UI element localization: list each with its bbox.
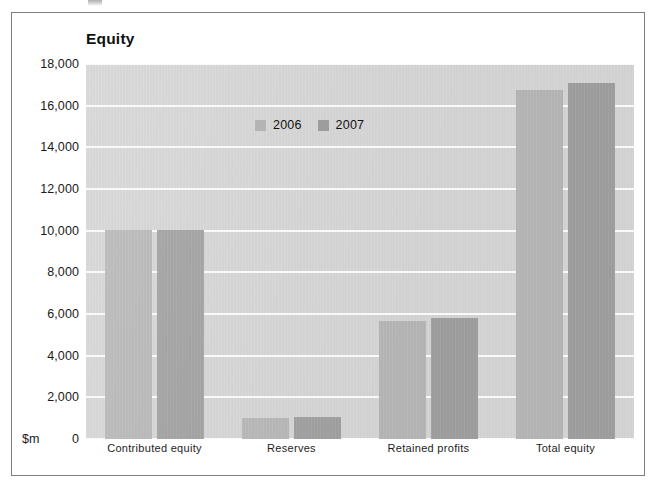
x-axis-tick-label: Reserves bbox=[267, 442, 316, 454]
y-axis-tick-label: 10,000 bbox=[40, 224, 79, 238]
legend-item-2006: 2006 bbox=[255, 118, 302, 132]
x-axis-tick-label: Total equity bbox=[536, 442, 595, 454]
legend-label: 2006 bbox=[273, 118, 302, 132]
bar-2007-reserves bbox=[294, 417, 341, 440]
y-axis-tick-label: 12,000 bbox=[40, 182, 79, 196]
bar-2006-reserves bbox=[242, 418, 289, 439]
y-axis-tick-label: 0 bbox=[72, 432, 79, 446]
y-axis-tick-label: 4,000 bbox=[47, 349, 79, 363]
legend-label: 2007 bbox=[336, 118, 365, 132]
y-axis-tick-label: 18,000 bbox=[40, 57, 79, 71]
bar-2006-contributed-equity bbox=[105, 230, 152, 439]
bar-2006-retained-profits bbox=[379, 321, 426, 439]
legend-item-2007: 2007 bbox=[318, 118, 365, 132]
y-axis-tick-label: 8,000 bbox=[47, 265, 79, 279]
x-axis-tick-label: Contributed equity bbox=[107, 442, 202, 454]
x-axis-tick-label: Retained profits bbox=[388, 442, 470, 454]
y-axis-tick-label: 6,000 bbox=[47, 307, 79, 321]
bar-2007-retained-profits bbox=[431, 318, 478, 439]
scan-artifact bbox=[88, 0, 102, 6]
page-title: Equity bbox=[86, 30, 135, 48]
legend-swatch-2007 bbox=[318, 120, 329, 131]
bar-2007-total-equity bbox=[568, 83, 615, 439]
y-axis-unit-label: $m bbox=[22, 432, 39, 446]
bar-2006-total-equity bbox=[516, 90, 563, 439]
chart-legend: 20062007 bbox=[255, 118, 364, 132]
y-axis: 18,00016,00014,00012,00010,0008,0006,000… bbox=[11, 64, 79, 439]
legend-swatch-2006 bbox=[255, 120, 266, 131]
y-axis-tick-label: 14,000 bbox=[40, 140, 79, 154]
y-axis-tick-label: 16,000 bbox=[40, 99, 79, 113]
x-axis-labels: Contributed equityReservesRetained profi… bbox=[86, 442, 634, 460]
bar-2007-contributed-equity bbox=[157, 230, 204, 439]
y-axis-tick-label: 2,000 bbox=[47, 390, 79, 404]
